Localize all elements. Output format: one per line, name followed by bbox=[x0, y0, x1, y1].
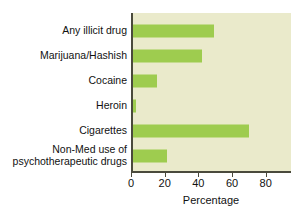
bar-track bbox=[131, 43, 291, 68]
x-tick-label: 80 bbox=[251, 177, 281, 189]
bar bbox=[133, 74, 157, 87]
x-axis-label: Percentage bbox=[131, 194, 291, 206]
bar-row: Cocaine bbox=[0, 68, 291, 93]
category-label: Cocaine bbox=[0, 75, 131, 87]
bar-track bbox=[131, 143, 291, 168]
x-tick-label: 60 bbox=[217, 177, 247, 189]
bar bbox=[133, 49, 202, 62]
bar-row: Non-Med use of psychotherapeutic drugs bbox=[0, 143, 291, 168]
bar-track bbox=[131, 18, 291, 43]
bar bbox=[133, 124, 249, 137]
category-label: Non-Med use of psychotherapeutic drugs bbox=[0, 144, 131, 167]
bar-rows: Any illicit drugMarijuana/HashishCocaine… bbox=[0, 18, 291, 168]
category-label: Marijuana/Hashish bbox=[0, 50, 131, 62]
bar bbox=[133, 149, 167, 162]
bar-track bbox=[131, 93, 291, 118]
bar-row: Any illicit drug bbox=[0, 18, 291, 43]
bar-row: Heroin bbox=[0, 93, 291, 118]
bar-track bbox=[131, 68, 291, 93]
bar-track bbox=[131, 118, 291, 143]
bar bbox=[133, 24, 214, 37]
x-tick-label: 20 bbox=[150, 177, 180, 189]
bar-row: Marijuana/Hashish bbox=[0, 43, 291, 68]
x-tick-label: 0 bbox=[116, 177, 146, 189]
category-label: Any illicit drug bbox=[0, 25, 131, 37]
category-label: Heroin bbox=[0, 100, 131, 112]
bar-row: Cigarettes bbox=[0, 118, 291, 143]
chart-figure: Any illicit drugMarijuana/HashishCocaine… bbox=[0, 0, 306, 217]
category-label: Cigarettes bbox=[0, 125, 131, 137]
x-tick-label: 40 bbox=[183, 177, 213, 189]
x-axis-line bbox=[131, 171, 291, 173]
bar bbox=[133, 99, 136, 112]
